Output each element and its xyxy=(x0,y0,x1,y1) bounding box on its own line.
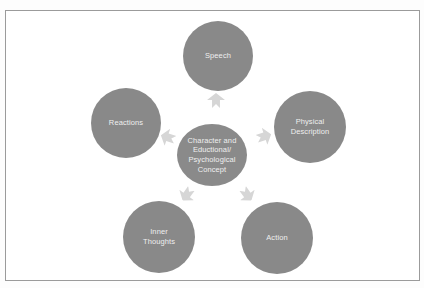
arrow-to-reactions-icon xyxy=(158,127,178,149)
arrow-to-speech-icon xyxy=(207,93,225,108)
node-speech: Speech xyxy=(183,21,253,91)
arrow-to-inner-thoughts-icon xyxy=(175,183,198,206)
node-physical-description: Physical Description xyxy=(274,91,346,163)
diagram-canvas: Speech Physical Description Action Inner… xyxy=(0,0,424,288)
node-reactions: Reactions xyxy=(91,88,161,158)
node-inner-thoughts: Inner Thoughts xyxy=(123,201,195,273)
node-action: Action xyxy=(241,202,313,274)
diagram-frame: Speech Physical Description Action Inner… xyxy=(5,10,420,281)
center-node: Character and Eductional/ Psychological … xyxy=(177,124,247,186)
arrow-to-action-icon xyxy=(235,183,258,206)
arrow-to-physical-description-icon xyxy=(254,126,274,148)
